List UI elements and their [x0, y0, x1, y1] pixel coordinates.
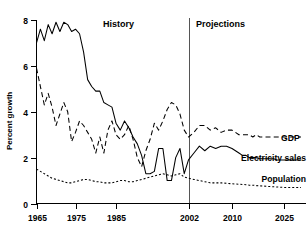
x-axis-tick-labels: 196519751985200220102025: [28, 213, 294, 223]
legend-label-electricity-sales: Electricity sales: [241, 153, 306, 163]
y-axis-tick-labels: 02468: [23, 16, 28, 210]
chart-canvas: 02468 196519751985200220102025 Percent g…: [0, 0, 308, 236]
x-tick-label: 1975: [67, 213, 86, 223]
x-tick-label: 2002: [180, 213, 199, 223]
legend-label-gdp: GDP: [281, 133, 300, 143]
chart-figure: 02468 196519751985200220102025 Percent g…: [0, 0, 308, 236]
y-tick-label: 4: [23, 108, 28, 118]
history-label: History: [103, 19, 134, 29]
y-tick-label: 0: [23, 200, 28, 210]
legend-label-population: Population: [262, 174, 306, 184]
projections-label: Projections: [196, 19, 245, 29]
series-gdp: [37, 68, 302, 167]
y-tick-label: 8: [23, 16, 28, 26]
y-tick-label: 2: [23, 154, 28, 164]
x-tick-label: 1985: [107, 213, 126, 223]
y-tick-label: 6: [23, 62, 28, 72]
x-tick-label: 1965: [28, 213, 47, 223]
y-axis-ticks: [31, 21, 37, 205]
y-axis-title: Percent growth: [5, 92, 14, 150]
x-axis-ticks: [38, 204, 285, 209]
x-tick-label: 2025: [275, 213, 294, 223]
x-tick-label: 2010: [223, 213, 242, 223]
